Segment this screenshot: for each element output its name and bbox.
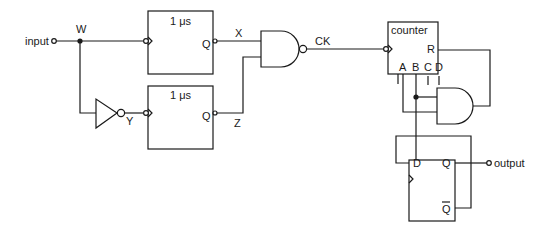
q-bubble-bottom — [213, 111, 217, 115]
counter-reset-label: R — [427, 43, 435, 55]
and-gate — [437, 88, 473, 124]
node-label-y: Y — [126, 115, 134, 127]
wire-w-to-inverter — [80, 41, 96, 113]
clock-bubble-top — [144, 39, 149, 44]
node-label-w: W — [76, 23, 87, 35]
input-label: input — [25, 35, 49, 47]
counter-output-a: A — [399, 61, 407, 73]
circuit-diagram: input W Y 1 μs Q 1 μs Q X Z CK — [0, 0, 547, 238]
node-label-z: Z — [234, 117, 241, 129]
wire-z — [217, 57, 261, 113]
q-label-bottom: Q — [202, 110, 211, 122]
delay-label-top: 1 μs — [170, 15, 192, 27]
delay-label-bottom: 1 μs — [170, 89, 192, 101]
nand-gate — [261, 31, 307, 67]
node-label-x: X — [235, 27, 243, 39]
counter-block: counter R A B C D — [384, 22, 443, 74]
ff-qbar-label: Q — [442, 203, 451, 215]
wire-a-to-and — [403, 74, 437, 112]
counter-output-b: B — [412, 61, 419, 73]
inverter-gate — [96, 99, 125, 128]
q-bubble-top — [213, 39, 217, 43]
one-shot-top: 1 μs Q — [144, 11, 217, 74]
q-label-top: Q — [202, 38, 211, 50]
one-shot-bottom: 1 μs Q — [144, 86, 217, 149]
input-terminal — [52, 39, 57, 44]
output-label: output — [494, 157, 525, 169]
node-label-ck: CK — [315, 35, 331, 47]
d-flip-flop: D Q Q — [409, 157, 455, 221]
output-terminal — [487, 161, 492, 166]
ff-d-label: D — [413, 157, 421, 169]
clock-bubble-bottom — [144, 111, 149, 116]
counter-output-d: D — [435, 61, 443, 73]
nand-bubble — [299, 45, 306, 52]
inverter-bubble — [117, 109, 124, 116]
ff-q-label: Q — [442, 157, 451, 169]
counter-clock-bubble — [384, 47, 389, 52]
counter-title: counter — [391, 24, 428, 36]
counter-output-c: C — [424, 61, 432, 73]
